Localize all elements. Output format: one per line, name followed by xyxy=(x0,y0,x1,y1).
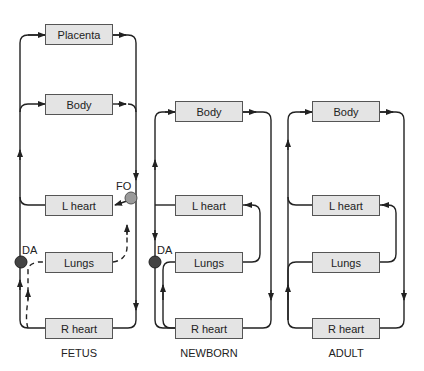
fetus-lheart-box: L heart xyxy=(45,195,113,216)
circulation-diagram-lines xyxy=(0,0,424,371)
newborn-caption: NEWBORN xyxy=(169,347,249,359)
newborn-lheart-box: L heart xyxy=(175,195,243,216)
adult-body-box: Body xyxy=(312,101,380,122)
fetus-placenta-box: Placenta xyxy=(45,24,113,45)
foramen-ovale xyxy=(125,192,137,204)
newborn-body-box: Body xyxy=(175,101,243,122)
adult-lungs-box: Lungs xyxy=(312,252,380,273)
newborn-lungs-box: Lungs xyxy=(175,252,243,273)
fetus-rheart-box: R heart xyxy=(45,318,113,339)
fetus-lungs-box: Lungs xyxy=(45,252,113,273)
ductus-arteriosus-newborn xyxy=(149,256,161,268)
fetus-fo-label: FO xyxy=(116,180,131,192)
adult-lheart-box: L heart xyxy=(312,195,380,216)
ductus-arteriosus-fetus xyxy=(15,256,27,268)
fetus-body-box: Body xyxy=(45,94,113,115)
fetus-da-label: DA xyxy=(22,244,37,256)
newborn-da-label: DA xyxy=(157,244,172,256)
newborn-rheart-box: R heart xyxy=(175,318,243,339)
adult-rheart-box: R heart xyxy=(312,318,380,339)
fetus-caption: FETUS xyxy=(39,347,119,359)
adult-caption: ADULT xyxy=(306,347,386,359)
